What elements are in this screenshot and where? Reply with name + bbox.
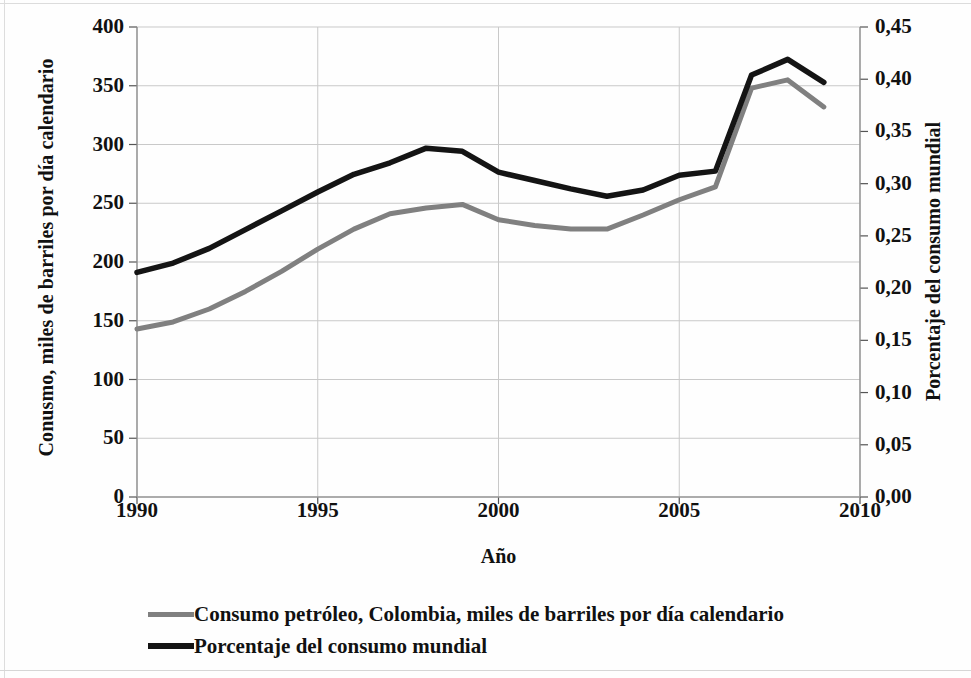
legend-label-porcentaje: Porcentaje del consumo mundial [194,634,487,659]
data-series-layer [137,59,824,329]
legend-item-consumo[interactable]: Consumo petróleo, Colombia, miles de bar… [148,598,908,630]
legend-label-consumo: Consumo petróleo, Colombia, miles de bar… [194,602,784,627]
plot-area [0,0,971,678]
legend-swatch-gray-line-icon [148,612,194,617]
chart-legend: Consumo petróleo, Colombia, miles de bar… [148,598,908,662]
legend-swatch-black-line-icon [148,643,194,649]
series-line-consumo [137,80,824,329]
legend-item-porcentaje[interactable]: Porcentaje del consumo mundial [148,630,908,662]
chart-figure: Conusmo, miles de barriles por día calen… [0,0,971,678]
